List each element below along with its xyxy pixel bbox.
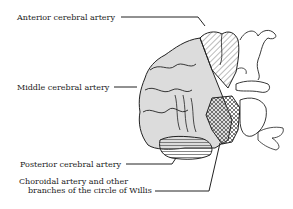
anterior-leader-line xyxy=(121,17,205,26)
label-anterior-cerebral-artery: Anterior cerebral artery xyxy=(17,13,115,22)
label-middle-cerebral-artery: Middle cerebral artery xyxy=(17,83,109,92)
label-posterior-cerebral-artery: Posterior cerebral artery xyxy=(20,160,121,169)
posterior-cerebral-territory xyxy=(160,136,212,159)
posterior-leader-line xyxy=(126,158,176,164)
label-choroidal-line2: branches of the circle of Willis xyxy=(28,186,152,195)
label-choroidal-line1: Choroidal artery and other xyxy=(19,177,128,186)
brain-artery-diagram: Anterior cerebral artery Middle cerebral… xyxy=(0,0,293,209)
